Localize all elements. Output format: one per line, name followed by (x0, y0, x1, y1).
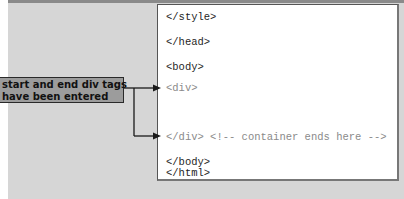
callout-arrows (0, 0, 404, 199)
arrow-to-close-div-icon (134, 88, 161, 140)
arrow-to-open-div-icon (124, 85, 161, 92)
